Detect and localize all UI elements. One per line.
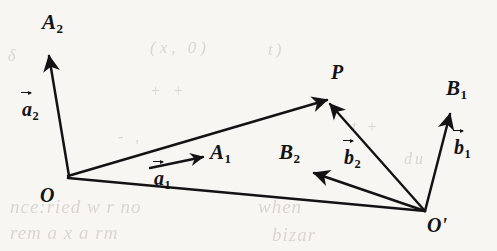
label-vector-a2: a2: [22, 98, 39, 124]
vector-a2-arrow: [49, 56, 69, 176]
label-vector-b1: b1: [454, 136, 471, 162]
label-B2: B2: [279, 140, 300, 167]
label-vector-a1: a1: [154, 167, 171, 193]
label-point-O: O: [40, 183, 54, 208]
label-A1: A1: [210, 140, 231, 167]
label-vector-b2: b2: [344, 146, 361, 172]
label-A2: A2: [42, 10, 63, 37]
label-point-Oprime: O': [427, 213, 447, 238]
figure-canvas: (x, 0) t) δ + + t + - , nce:ried w r no …: [0, 0, 497, 251]
vector-b1-arrow: [425, 114, 450, 211]
vector-diagram-svg: [0, 0, 497, 251]
label-point-P: P: [331, 60, 343, 85]
baseline-O-to-Oprime: [68, 178, 425, 211]
label-B1: B1: [446, 76, 467, 103]
